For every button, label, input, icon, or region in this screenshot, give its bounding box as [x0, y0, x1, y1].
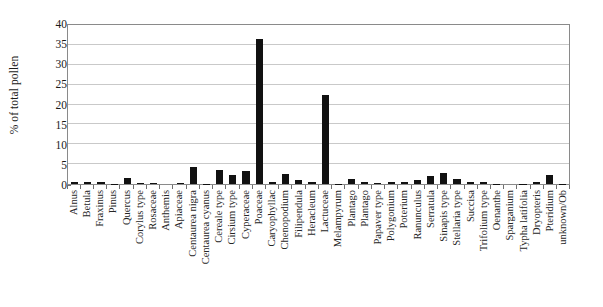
x-label-slot: Corylus type — [133, 190, 146, 305]
bar-slot — [371, 25, 384, 184]
x-tick-mark — [212, 185, 213, 189]
x-tick-slot — [93, 185, 106, 189]
x-label-slot: Plantago — [345, 190, 358, 305]
x-tick-label: Ranunculus — [412, 190, 423, 240]
x-tick-mark — [159, 185, 160, 189]
x-label-slot: Betula — [80, 190, 93, 305]
bar — [295, 180, 302, 184]
x-label-slot: Sinapis type — [438, 190, 451, 305]
x-tick-mark — [530, 185, 531, 189]
x-tick-mark — [199, 185, 200, 189]
bar-slot — [424, 25, 437, 184]
x-label-slot: Oenanthe — [491, 190, 504, 305]
x-label-slot: Anthemis — [160, 190, 173, 305]
x-label-slot: Stellaria type — [451, 190, 464, 305]
x-tick-label: Filipendula — [293, 190, 304, 238]
x-tick-mark — [543, 185, 544, 189]
bar — [242, 171, 249, 184]
bar — [453, 179, 460, 184]
bar-slot — [319, 25, 332, 184]
x-label-slot: Pteridium — [543, 190, 556, 305]
x-tick-slot — [292, 185, 305, 189]
x-tick-slot — [332, 185, 345, 189]
bar-slot — [292, 25, 305, 184]
x-tick-slot — [213, 185, 226, 189]
x-tick-label: Pinus — [108, 190, 119, 213]
bar — [361, 182, 368, 184]
x-tick-mark — [67, 185, 68, 189]
bar-slot — [358, 25, 371, 184]
bar — [177, 183, 184, 184]
y-axis-title: % of total pollen — [2, 0, 26, 190]
x-tick-slot — [80, 185, 93, 189]
x-label-slot: Cirsium type — [226, 190, 239, 305]
x-tick-slot — [385, 185, 398, 189]
x-tick-label: Poterium — [399, 190, 410, 229]
x-tick-mark — [133, 185, 134, 189]
x-label-slot: Sparganium — [504, 190, 517, 305]
x-tick-label: unknown/Ob — [558, 190, 569, 245]
x-tick-slot — [530, 185, 543, 189]
x-label-slot: Rosaceae — [146, 190, 159, 305]
bar — [467, 182, 474, 184]
bar-slot — [187, 25, 200, 184]
bar-series — [68, 25, 569, 184]
x-tick-label: Centaurea nigra — [187, 190, 198, 257]
x-tick-label: Plantago — [346, 190, 357, 227]
x-tick-slot — [318, 185, 331, 189]
x-label-slot: Succisa — [464, 190, 477, 305]
bar-slot — [239, 25, 252, 184]
plot-area — [67, 24, 570, 185]
x-label-slot: Poterium — [398, 190, 411, 305]
bar-slot — [266, 25, 279, 184]
bar-slot — [385, 25, 398, 184]
x-label-slot: unknown/Ob — [557, 190, 570, 305]
bar-slot — [411, 25, 424, 184]
x-tick-label: Stellaria type — [452, 190, 463, 246]
x-label-slot: Chenopodium — [279, 190, 292, 305]
x-tick-label: Succisa — [465, 190, 476, 222]
x-tick-mark — [265, 185, 266, 189]
x-tick-mark — [516, 185, 517, 189]
x-tick-mark — [464, 185, 465, 189]
y-tick-label-40: 40 — [43, 18, 67, 30]
bar-slot — [490, 25, 503, 184]
x-tick-mark — [93, 185, 94, 189]
x-tick-mark — [186, 185, 187, 189]
x-tick-label: Serratula — [426, 190, 437, 228]
x-tick-mark — [556, 185, 557, 189]
x-tick-mark — [450, 185, 451, 189]
x-label-slot: Trifolium type — [477, 190, 490, 305]
x-tick-label: Trifolium type — [479, 190, 490, 251]
x-tick-mark — [291, 185, 292, 189]
x-tick-label: Poaceae — [254, 190, 265, 224]
x-tick-mark — [424, 185, 425, 189]
x-tick-label: Sinapis type — [439, 190, 450, 242]
x-tick-slot — [226, 185, 239, 189]
bar-slot — [305, 25, 318, 184]
y-tick-label-10: 10 — [43, 139, 67, 151]
x-tick-slot — [345, 185, 358, 189]
x-tick-mark — [119, 185, 120, 189]
x-tick-mark — [239, 185, 240, 189]
bar-slot — [200, 25, 213, 184]
x-label-slot: Typha latifolia — [517, 190, 530, 305]
x-tick-label: Papaver type — [373, 190, 384, 245]
y-axis-title-label: % of total pollen — [8, 56, 20, 135]
bar — [256, 39, 263, 184]
y-tick-label-20: 20 — [43, 99, 67, 111]
x-tick-mark — [80, 185, 81, 189]
bar-slot — [437, 25, 450, 184]
bar — [533, 182, 540, 184]
x-tick-mark — [278, 185, 279, 189]
x-tick-label: Melampyrum — [333, 190, 344, 247]
bar-slot — [450, 25, 463, 184]
pollen-bar-chart: % of total pollen 0510152025303540 Alnus… — [0, 0, 603, 307]
x-tick-mark — [305, 185, 306, 189]
x-tick-slot — [305, 185, 318, 189]
x-tick-slot — [252, 185, 265, 189]
x-tick-mark — [344, 185, 345, 189]
x-tick-slot — [239, 185, 252, 189]
bar-slot — [253, 25, 266, 184]
bar — [150, 183, 157, 184]
